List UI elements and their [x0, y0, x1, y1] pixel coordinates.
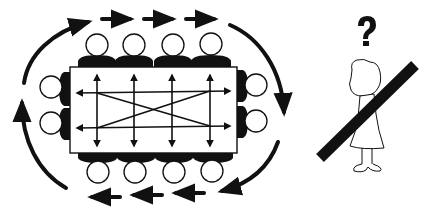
- person-left-1: [40, 72, 70, 106]
- person-bottom-4: [193, 153, 233, 182]
- diagram-canvas: [0, 0, 436, 208]
- people-bottom: [78, 153, 233, 183]
- person-top-2: [115, 34, 153, 67]
- meeting-group: [22, 19, 284, 197]
- person-top-1: [78, 34, 116, 67]
- person-top-3: [154, 34, 192, 67]
- person-right-1: [237, 70, 267, 102]
- person-left-2: [40, 108, 70, 140]
- person-bottom-2: [117, 153, 155, 183]
- hair: [350, 59, 381, 96]
- person-top-4: [191, 33, 231, 67]
- person-bottom-1: [78, 153, 117, 183]
- person-right-2: [237, 106, 267, 138]
- legs: [362, 148, 372, 164]
- people-left: [40, 72, 70, 140]
- question-mark-icon: [358, 16, 376, 46]
- feet: [354, 164, 381, 172]
- person-bottom-3: [155, 153, 193, 183]
- people-right: [237, 70, 267, 138]
- people-top: [78, 33, 231, 67]
- isolated-person-group: [320, 16, 415, 172]
